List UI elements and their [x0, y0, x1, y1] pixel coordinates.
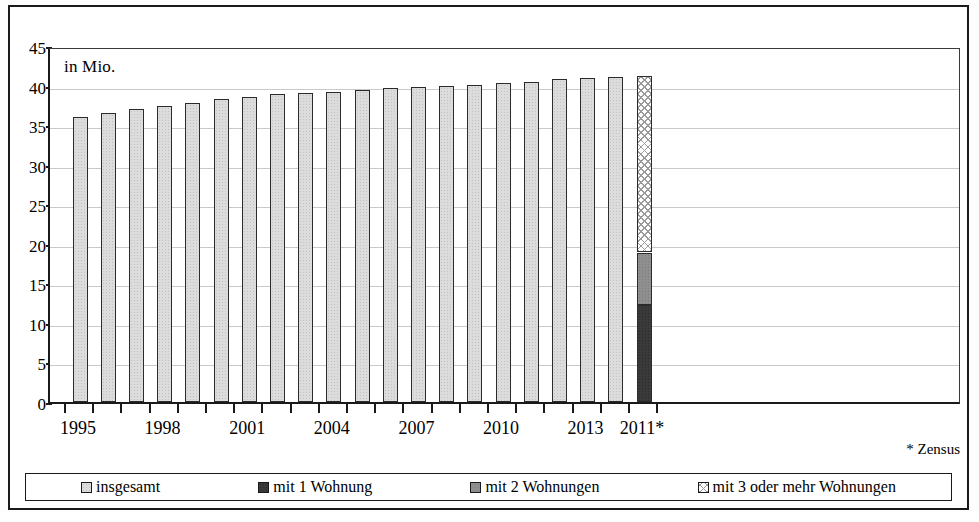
chart-bar[interactable]	[214, 46, 229, 402]
bar-segment	[411, 87, 426, 402]
y-tick-label: 45	[6, 40, 46, 57]
legend-swatch-icon	[698, 482, 709, 493]
chart-legend: insgesamtmit 1 Wohnungmit 2 Wohnungenmit…	[25, 473, 952, 501]
bar-segment	[439, 86, 454, 402]
legend-item[interactable]: mit 3 oder mehr Wohnungen	[698, 478, 896, 496]
x-tick-mark	[290, 404, 292, 413]
x-tick-mark	[487, 404, 489, 413]
y-tick-label: 35	[6, 119, 46, 136]
y-tick-label: 20	[6, 238, 46, 255]
page-edge	[0, 512, 979, 522]
x-tick-label: 2013	[568, 418, 604, 438]
bar-segment	[157, 106, 172, 402]
x-tick-label: 2004	[314, 418, 350, 438]
chart-bar[interactable]	[439, 46, 454, 402]
x-tick-mark	[318, 404, 320, 413]
chart-bar[interactable]	[524, 46, 539, 402]
x-tick-mark	[431, 404, 433, 413]
x-tick-mark	[374, 404, 376, 413]
chart-bar[interactable]	[637, 46, 652, 402]
x-tick-mark	[402, 404, 404, 413]
chart-bar[interactable]	[496, 46, 511, 402]
x-tick-label: 2001	[229, 418, 265, 438]
bar-segment	[608, 77, 623, 402]
y-tick-label: 15	[6, 277, 46, 294]
chart-bar[interactable]	[552, 46, 567, 402]
x-tick-mark	[600, 404, 602, 413]
bar-segment	[185, 103, 200, 402]
legend-item[interactable]: mit 1 Wohnung	[258, 478, 372, 496]
legend-item[interactable]: insgesamt	[81, 478, 160, 496]
x-tick-mark	[261, 404, 263, 413]
chart-bar[interactable]	[129, 46, 144, 402]
bar-segment	[496, 83, 511, 402]
x-tick-mark	[543, 404, 545, 413]
chart-bar[interactable]	[355, 46, 370, 402]
bar-segment	[637, 76, 652, 252]
chart-bar[interactable]	[580, 46, 595, 402]
bar-segment	[270, 94, 285, 402]
legend-swatch-icon	[81, 482, 92, 493]
x-tick-mark	[628, 404, 630, 413]
bar-segment	[467, 85, 482, 402]
chart-bar[interactable]	[298, 46, 313, 402]
chart-bar[interactable]	[467, 46, 482, 402]
x-tick-mark	[177, 404, 179, 413]
bar-segment	[242, 97, 257, 402]
legend-swatch-icon	[470, 482, 481, 493]
bar-segment	[524, 82, 539, 402]
y-tick-label: 5	[6, 356, 46, 373]
x-tick-label: 1995	[60, 418, 96, 438]
x-tick-mark	[149, 404, 151, 413]
y-tick-label: 40	[6, 80, 46, 97]
bar-segment	[101, 113, 116, 402]
x-tick-label: 1998	[145, 418, 181, 438]
x-tick-label: 2007	[398, 418, 434, 438]
bar-segment	[637, 305, 652, 402]
legend-item[interactable]: mit 2 Wohnungen	[470, 478, 599, 496]
chart-bar[interactable]	[326, 46, 341, 402]
bar-segment	[73, 117, 88, 402]
y-tick-label: 30	[6, 159, 46, 176]
chart-bar[interactable]	[383, 46, 398, 402]
y-tick-label: 25	[6, 198, 46, 215]
chart-bar[interactable]	[157, 46, 172, 402]
x-tick-mark	[64, 404, 66, 413]
x-tick-label: 2011*	[620, 418, 664, 438]
x-tick-mark	[515, 404, 517, 413]
y-tick-label: 10	[6, 317, 46, 334]
bar-segment	[355, 90, 370, 402]
x-tick-label: 2010	[483, 418, 519, 438]
chart-bar[interactable]	[101, 46, 116, 402]
bars-layer	[50, 49, 959, 402]
legend-label: mit 3 oder mehr Wohnungen	[713, 478, 896, 496]
census-footnote: * Zensus	[906, 441, 960, 458]
legend-swatch-icon	[258, 482, 269, 493]
bar-segment	[214, 99, 229, 402]
x-tick-mark	[120, 404, 122, 413]
x-tick-mark	[233, 404, 235, 413]
chart-bar[interactable]	[242, 46, 257, 402]
bar-segment	[129, 109, 144, 403]
chart-bar[interactable]	[270, 46, 285, 402]
bar-segment	[326, 92, 341, 402]
x-tick-mark	[656, 404, 658, 413]
plot-area: in Mio.	[48, 48, 960, 404]
x-axis	[48, 404, 960, 418]
x-tick-mark	[459, 404, 461, 413]
bar-segment	[580, 78, 595, 402]
x-tick-mark	[572, 404, 574, 413]
x-tick-mark	[205, 404, 207, 413]
y-axis: 454035302520151050	[0, 48, 46, 404]
x-tick-mark	[92, 404, 94, 413]
bar-segment	[552, 79, 567, 402]
bar-segment	[637, 253, 652, 305]
x-tick-mark	[346, 404, 348, 413]
bar-segment	[383, 88, 398, 402]
chart-bar[interactable]	[411, 46, 426, 402]
chart-figure: 454035302520151050 in Mio. 1995199820012…	[0, 0, 979, 522]
chart-bar[interactable]	[73, 46, 88, 402]
chart-bar[interactable]	[608, 46, 623, 402]
legend-label: insgesamt	[96, 478, 160, 496]
chart-bar[interactable]	[185, 46, 200, 402]
